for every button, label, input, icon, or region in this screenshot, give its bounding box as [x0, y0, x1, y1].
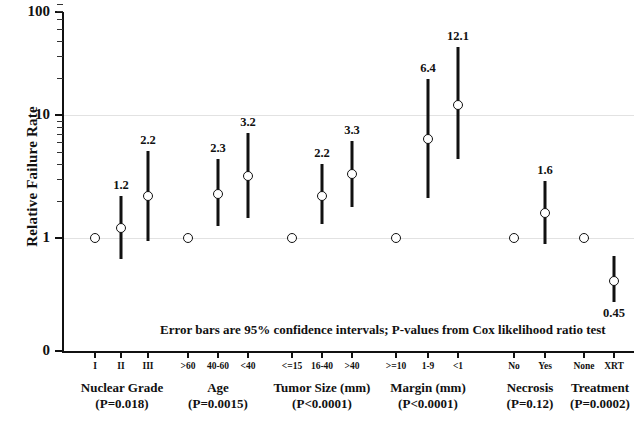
- group-pvalue: (P<0.0001): [390, 396, 465, 412]
- x-tick-label: 1-9: [422, 361, 435, 371]
- y-minor-tick: [57, 201, 63, 202]
- y-axis-line: [62, 12, 64, 352]
- data-value-label: 3.3: [344, 123, 360, 138]
- x-tick-label: III: [142, 361, 153, 371]
- y-minor-tick: [57, 164, 63, 165]
- data-value-label: 1.6: [537, 163, 553, 178]
- group-pvalue: (P=0.12): [507, 396, 554, 412]
- gridline-1: [64, 238, 634, 239]
- x-tick-0-1: [120, 351, 122, 358]
- x-tick-label: No: [508, 361, 520, 371]
- y-minor-tick: [57, 4, 63, 5]
- data-point-marker: [423, 134, 433, 144]
- x-tick-5-1: [613, 351, 615, 358]
- group-name: Age: [188, 380, 248, 396]
- data-point-marker: [579, 233, 589, 243]
- x-tick-1-1: [217, 351, 219, 358]
- y-minor-tick: [57, 121, 63, 122]
- y-label-10: 10: [6, 107, 50, 122]
- y-minor-tick: [57, 134, 63, 135]
- data-point-marker: [90, 233, 100, 243]
- group-name: Necrosis: [507, 380, 554, 396]
- group-caption-age: Age(P=0.0015): [188, 380, 248, 413]
- data-point-marker: [183, 233, 193, 243]
- y-axis-title: Relative Failure Rate: [24, 67, 41, 287]
- data-point-marker: [609, 276, 619, 286]
- y-minor-tick: [57, 127, 63, 128]
- data-value-label: 12.1: [447, 29, 469, 44]
- group-name: Nuclear Grade: [81, 380, 163, 396]
- group-name: Margin (mm): [390, 380, 465, 396]
- gridline-10: [64, 115, 634, 116]
- group-caption-necrosis: Necrosis(P=0.12): [507, 380, 554, 413]
- group-caption-tumor-size-mm: Tumor Size (mm)(P<0.0001): [274, 380, 371, 413]
- data-point-marker: [509, 233, 519, 243]
- group-pvalue: (P=0.0002): [570, 396, 630, 412]
- y-minor-tick: [57, 29, 63, 30]
- x-tick-label: Yes: [538, 361, 552, 371]
- data-point-marker: [243, 171, 253, 181]
- x-tick-label: >=10: [386, 361, 406, 371]
- group-pvalue: (P<0.0001): [274, 396, 371, 412]
- x-tick-label: <40: [241, 361, 256, 371]
- group-caption-margin-mm: Margin (mm)(P<0.0001): [390, 380, 465, 413]
- x-tick-label: >40: [345, 361, 360, 371]
- x-tick-2-1: [321, 351, 323, 358]
- x-tick-1-0: [187, 351, 189, 358]
- data-point-marker: [213, 189, 223, 199]
- group-name: Treatment: [570, 380, 630, 396]
- x-tick-label: I: [93, 361, 97, 371]
- x-tick-0-2: [147, 351, 149, 358]
- group-pvalue: (P=0.0015): [188, 396, 248, 412]
- data-value-label: 2.2: [140, 133, 156, 148]
- chart-footnote: Error bars are 95% confidence intervals;…: [160, 322, 606, 338]
- x-tick-label: XRT: [604, 361, 624, 371]
- data-point-marker: [143, 191, 153, 201]
- data-value-label: 6.4: [420, 61, 436, 76]
- x-tick-label: <=15: [282, 361, 302, 371]
- data-point-marker: [317, 191, 327, 201]
- y-minor-tick: [57, 56, 63, 57]
- x-tick-label: 40-60: [207, 361, 229, 371]
- data-value-label: 1.2: [113, 178, 129, 193]
- x-tick-4-0: [513, 351, 515, 358]
- y-minor-tick: [57, 152, 63, 153]
- group-pvalue: (P=0.018): [81, 396, 163, 412]
- group-caption-nuclear-grade: Nuclear Grade(P=0.018): [81, 380, 163, 413]
- y-tick-10: [55, 114, 63, 116]
- x-tick-1-2: [247, 351, 249, 358]
- data-value-label: 2.2: [314, 146, 330, 161]
- y-label-0: 0: [6, 343, 50, 358]
- x-tick-5-0: [583, 351, 585, 358]
- data-point-marker: [347, 169, 357, 179]
- relative-failure-rate-chart: Relative Failure Rate 1001010 IIIIII>604…: [0, 0, 636, 421]
- x-tick-label: <1: [453, 361, 463, 371]
- y-minor-tick: [57, 41, 63, 42]
- data-point-marker: [391, 233, 401, 243]
- x-tick-3-2: [457, 351, 459, 358]
- group-name: Tumor Size (mm): [274, 380, 371, 396]
- x-tick-label: >60: [181, 361, 196, 371]
- y-minor-tick: [57, 78, 63, 79]
- x-tick-4-1: [544, 351, 546, 358]
- x-tick-2-2: [351, 351, 353, 358]
- y-minor-tick: [57, 142, 63, 143]
- y-minor-tick: [57, 11, 63, 12]
- data-value-label: 2.3: [210, 141, 226, 156]
- y-minor-tick: [57, 179, 63, 180]
- x-tick-0-0: [94, 351, 96, 358]
- y-label-100: 100: [6, 4, 50, 19]
- y-minor-tick: [57, 19, 63, 20]
- data-value-label: 0.45: [603, 306, 625, 321]
- data-point-marker: [453, 100, 463, 110]
- data-point-marker: [116, 223, 126, 233]
- x-tick-label: None: [573, 361, 594, 371]
- x-tick-3-1: [427, 351, 429, 358]
- x-tick-2-0: [291, 351, 293, 358]
- data-point-marker: [287, 233, 297, 243]
- x-tick-3-0: [395, 351, 397, 358]
- group-caption-treatment: Treatment(P=0.0002): [570, 380, 630, 413]
- data-value-label: 3.2: [240, 115, 256, 130]
- y-label-1: 1: [6, 230, 50, 245]
- x-tick-label: 16-40: [311, 361, 333, 371]
